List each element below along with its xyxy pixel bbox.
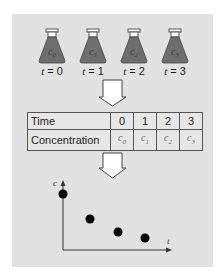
x-axis-arrow-icon xyxy=(166,248,172,253)
data-point xyxy=(59,190,68,199)
y-axis-arrow-icon xyxy=(61,180,66,186)
y-axis-label: c xyxy=(53,178,57,188)
x-axis-label: t xyxy=(167,236,170,246)
data-point xyxy=(141,234,150,243)
data-point xyxy=(86,215,95,224)
data-point xyxy=(114,228,123,237)
concentration-plot: c t xyxy=(0,0,224,279)
